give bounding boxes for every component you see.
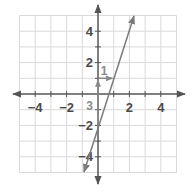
run-label: 1 xyxy=(101,64,108,78)
x-tick-label: 4 xyxy=(157,100,165,115)
y-tick-label: 2 xyxy=(86,55,93,70)
rise-label: 3 xyxy=(86,99,93,113)
coordinate-plane: −4 −2 2 4 4 2 −2 −4 3 1 xyxy=(0,0,192,193)
x-tick-label: −2 xyxy=(59,100,74,115)
y-tick-label: −2 xyxy=(78,118,93,133)
x-tick-label: 2 xyxy=(126,100,133,115)
x-tick-label: −4 xyxy=(28,100,44,115)
y-tick-label: 4 xyxy=(86,24,94,39)
